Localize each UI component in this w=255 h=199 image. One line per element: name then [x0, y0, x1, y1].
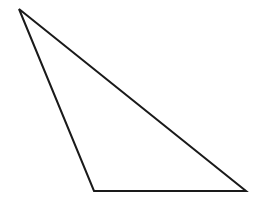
triangle-shape: [19, 9, 246, 191]
diagram-canvas: [0, 0, 255, 199]
triangle-figure: [0, 0, 255, 199]
